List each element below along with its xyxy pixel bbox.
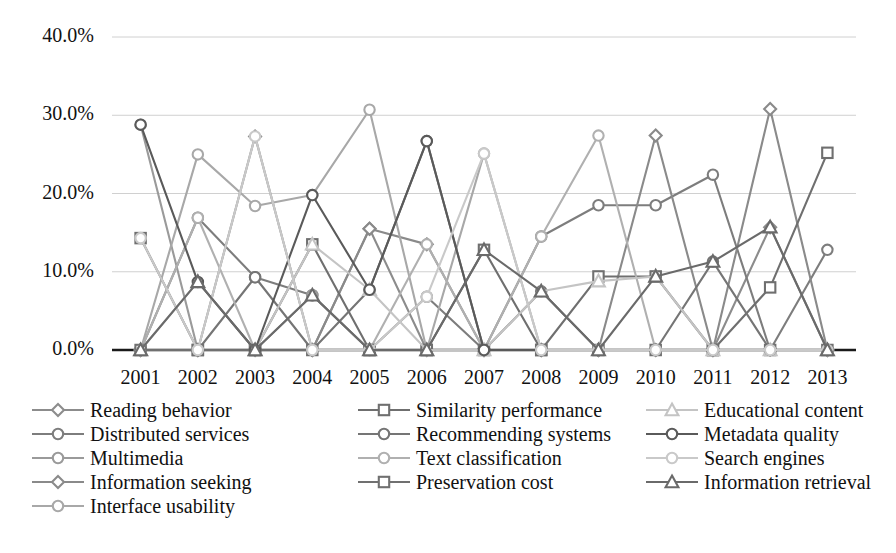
data-point-circle (307, 345, 317, 355)
legend-item[interactable]: Distributed services (30, 422, 330, 446)
data-point-circle (650, 345, 660, 355)
legend-column-1: Similarity performanceRecommending syste… (356, 398, 644, 494)
y-axis-tick-label: 30.0% (6, 102, 94, 125)
line-chart-plot (0, 0, 896, 400)
legend-marker-circle-icon (356, 446, 412, 470)
legend-item[interactable]: Text classification (356, 446, 644, 470)
legend-item[interactable]: Preservation cost (356, 470, 644, 494)
data-point-circle (422, 292, 432, 302)
legend-item[interactable]: Information seeking (30, 470, 330, 494)
data-point-circle (193, 345, 203, 355)
data-point-circle (307, 190, 317, 200)
legend-marker-circle-icon (644, 422, 700, 446)
data-point-circle (53, 501, 63, 511)
data-point-circle (364, 285, 374, 295)
legend-item[interactable]: Similarity performance (356, 398, 644, 422)
data-point-circle (667, 453, 677, 463)
data-point-circle (250, 131, 260, 141)
legend-item[interactable]: Multimedia (30, 446, 330, 470)
chart-legend: Reading behaviorDistributed servicesMult… (24, 398, 892, 548)
data-point-circle (536, 231, 546, 241)
data-point-circle (379, 453, 389, 463)
data-point-circle (765, 345, 775, 355)
legend-item[interactable]: Search engines (644, 446, 896, 470)
x-axis-tick-label: 2013 (797, 366, 857, 389)
legend-key (356, 470, 416, 494)
legend-key (30, 494, 90, 518)
data-point-circle (479, 345, 489, 355)
data-point-circle (536, 345, 546, 355)
legend-item[interactable]: Educational content (644, 398, 896, 422)
legend-key (30, 398, 90, 422)
data-point-circle (193, 213, 203, 223)
legend-label: Search engines (704, 446, 825, 470)
legend-column-0: Reading behaviorDistributed servicesMult… (30, 398, 330, 518)
data-point-circle (250, 272, 260, 282)
x-axis-tick-label: 2007 (454, 366, 514, 389)
data-point-circle (422, 239, 432, 249)
data-point-circle (650, 200, 660, 210)
data-point-diamond (52, 476, 64, 488)
data-point-circle (708, 345, 718, 355)
x-axis-tick-label: 2005 (340, 366, 400, 389)
data-point-circle (593, 200, 603, 210)
legend-marker-circle-icon (30, 422, 86, 446)
data-point-square (379, 405, 389, 415)
legend-label: Information seeking (90, 470, 252, 494)
legend-marker-diamond-icon (30, 398, 86, 422)
data-point-diamond (650, 130, 662, 142)
legend-label: Preservation cost (416, 470, 553, 494)
series-line (141, 110, 828, 350)
legend-item[interactable]: Information retrieval (644, 470, 896, 494)
x-axis-tick-label: 2012 (740, 366, 800, 389)
chart-container: 0.0%10.0%20.0%30.0%40.0% 200120022003200… (0, 0, 896, 553)
data-point-diamond (364, 223, 376, 235)
data-point-circle (593, 130, 603, 140)
data-point-diamond (52, 404, 64, 416)
x-axis-tick-label: 2006 (397, 366, 457, 389)
legend-key (30, 446, 90, 470)
legend-label: Reading behavior (90, 398, 232, 422)
legend-label: Recommending systems (416, 422, 611, 446)
legend-label: Distributed services (90, 422, 249, 446)
legend-marker-circle-icon (30, 446, 86, 470)
x-axis-tick-label: 2004 (282, 366, 342, 389)
data-point-circle (667, 429, 677, 439)
data-point-circle (364, 105, 374, 115)
x-axis-tick-label: 2001 (111, 366, 171, 389)
data-point-circle (193, 149, 203, 159)
data-point-circle (479, 148, 489, 158)
legend-item[interactable]: Metadata quality (644, 422, 896, 446)
legend-marker-diamond-icon (30, 470, 86, 494)
legend-marker-triangle-icon (644, 470, 700, 494)
legend-marker-circle-icon (30, 494, 86, 518)
data-point-circle (250, 201, 260, 211)
legend-label: Information retrieval (704, 470, 871, 494)
legend-key (644, 446, 704, 470)
x-axis-tick-label: 2002 (168, 366, 228, 389)
x-axis-tick-label: 2003 (225, 366, 285, 389)
legend-marker-square-icon (356, 470, 412, 494)
legend-key (356, 398, 416, 422)
data-point-circle (53, 453, 63, 463)
gridlines (112, 37, 856, 350)
data-point-circle (422, 136, 432, 146)
series-distributed-services (135, 170, 832, 356)
x-axis-tick-label: 2010 (626, 366, 686, 389)
data-point-square (822, 148, 832, 158)
legend-item[interactable]: Interface usability (30, 494, 330, 518)
legend-key (356, 446, 416, 470)
y-axis-tick-label: 0.0% (6, 337, 94, 360)
legend-column-2: Educational contentMetadata qualitySearc… (644, 398, 896, 494)
data-point-circle (379, 429, 389, 439)
x-axis-tick-label: 2011 (683, 366, 743, 389)
legend-item[interactable]: Reading behavior (30, 398, 330, 422)
legend-label: Text classification (416, 446, 562, 470)
data-point-square (379, 477, 389, 487)
legend-key (644, 422, 704, 446)
data-point-diamond (764, 103, 776, 115)
x-axis-tick-label: 2008 (511, 366, 571, 389)
data-point-circle (53, 429, 63, 439)
legend-marker-circle-icon (644, 446, 700, 470)
legend-item[interactable]: Recommending systems (356, 422, 644, 446)
